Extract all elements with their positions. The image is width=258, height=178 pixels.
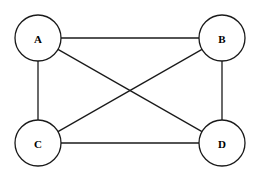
node-c[interactable]: C [15,120,61,166]
node-b-label: B [218,33,226,45]
graph-canvas: A B C D [0,0,258,178]
node-c-label: C [34,138,42,150]
node-a[interactable]: A [15,15,61,61]
node-d[interactable]: D [199,120,245,166]
node-d-label: D [218,138,226,150]
graph-diagram: A B C D [0,0,258,178]
edge-layer [38,38,222,143]
node-a-label: A [34,33,42,45]
node-b[interactable]: B [199,15,245,61]
